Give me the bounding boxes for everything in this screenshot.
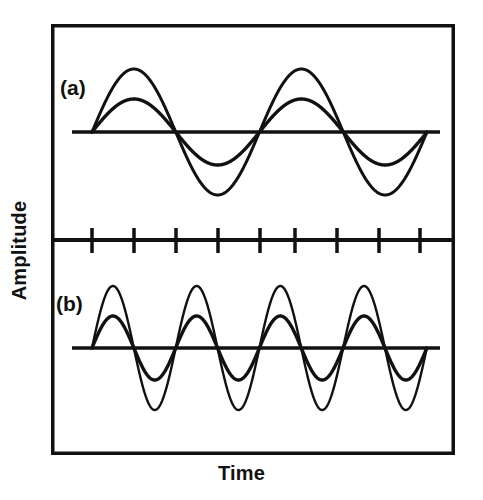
y-axis-label: Amplitude (0, 0, 40, 500)
panel-b (72, 286, 440, 410)
panel-divider (51, 228, 455, 253)
panel-a (72, 69, 440, 195)
waveform-figure: (a) (b) Amplitude Time (0, 0, 483, 500)
plot-canvas (0, 0, 483, 500)
x-axis-label: Time (0, 462, 483, 485)
panel-a-label: (a) (60, 76, 86, 100)
panel-b-label: (b) (56, 292, 83, 316)
y-axis-label-text: Amplitude (9, 200, 32, 300)
